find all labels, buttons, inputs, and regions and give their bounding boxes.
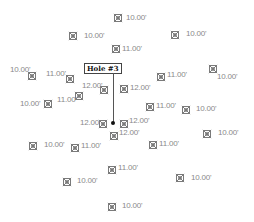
depth-label: 10.00': [77, 177, 97, 185]
depth-label: 10.00': [191, 174, 211, 182]
crossed-box-icon: [108, 166, 117, 175]
depth-label: 10.00': [44, 141, 64, 149]
crossed-box-icon: [182, 106, 191, 115]
crossed-box-icon: [146, 103, 155, 112]
blast-hole-marker-icon[interactable]: [149, 141, 158, 150]
depth-label: 12.00': [130, 84, 150, 92]
hole-leader-line: [113, 73, 114, 122]
blast-hole-marker-icon[interactable]: [120, 85, 129, 94]
crossed-box-icon: [71, 144, 80, 153]
blast-hole-marker-icon[interactable]: [157, 73, 166, 82]
blast-hole-marker-icon[interactable]: [176, 174, 185, 183]
blast-hole-marker-icon[interactable]: [182, 106, 191, 115]
depth-label: 11.00': [122, 45, 142, 53]
crossed-box-icon: [29, 142, 38, 151]
depth-label: 11.00': [118, 164, 138, 172]
depth-label: 10.00': [84, 32, 104, 40]
blast-hole-marker-icon[interactable]: [171, 31, 180, 40]
crossed-box-icon: [120, 85, 129, 94]
depth-label: 11.00': [156, 102, 176, 110]
crossed-box-icon: [108, 203, 117, 212]
crossed-box-icon: [66, 75, 75, 84]
depth-label: 11.00': [159, 140, 179, 148]
blast-hole-marker-icon[interactable]: [114, 14, 123, 23]
depth-label: 12.00': [82, 82, 102, 90]
blast-hole-marker-icon[interactable]: [108, 166, 117, 175]
depth-label: 10.00': [10, 66, 30, 74]
depth-label: 10.00': [126, 14, 146, 22]
depth-label: 11.00': [57, 96, 77, 104]
depth-label: 12.00': [80, 119, 100, 127]
crossed-box-icon: [63, 178, 72, 187]
blast-hole-marker-icon[interactable]: [63, 178, 72, 187]
crossed-box-icon: [176, 174, 185, 183]
blast-hole-marker-icon[interactable]: [203, 130, 212, 139]
blast-hole-marker-icon[interactable]: [44, 100, 53, 109]
depth-label: 12.00': [119, 129, 139, 137]
crossed-box-icon: [69, 32, 78, 41]
depth-label: 10.00': [217, 73, 237, 81]
depth-label: 12.00': [129, 117, 149, 125]
blast-hole-marker-icon[interactable]: [112, 45, 121, 54]
crossed-box-icon: [110, 132, 119, 141]
blast-hole-marker-icon[interactable]: [71, 144, 80, 153]
drill-hole-plot: Hole #3 10.00' 10.00' 10.00' 11.0: [0, 0, 254, 222]
crossed-box-icon: [171, 31, 180, 40]
depth-label: 10.00': [20, 100, 40, 108]
blast-hole-marker-icon[interactable]: [110, 132, 119, 141]
crossed-box-icon: [203, 130, 212, 139]
crossed-box-icon: [44, 100, 53, 109]
hole-label[interactable]: Hole #3: [84, 63, 122, 74]
crossed-box-icon: [112, 45, 121, 54]
crossed-box-icon: [114, 14, 123, 23]
blast-hole-marker-icon[interactable]: [66, 75, 75, 84]
blast-hole-marker-icon[interactable]: [29, 142, 38, 151]
depth-label: 10.00': [218, 129, 238, 137]
depth-label: 11.00': [81, 142, 101, 150]
blast-hole-marker-icon[interactable]: [69, 32, 78, 41]
depth-label: 11.00': [167, 71, 187, 79]
blast-hole-marker-icon[interactable]: [108, 203, 117, 212]
blast-hole-marker-icon[interactable]: [146, 103, 155, 112]
depth-label: 10.00': [186, 30, 206, 38]
depth-label: 10.00': [196, 105, 216, 113]
depth-label: 11.00': [46, 70, 66, 78]
depth-label: 10.00': [122, 202, 142, 210]
crossed-box-icon: [149, 141, 158, 150]
crossed-box-icon: [157, 73, 166, 82]
hole-point[interactable]: [111, 121, 115, 125]
